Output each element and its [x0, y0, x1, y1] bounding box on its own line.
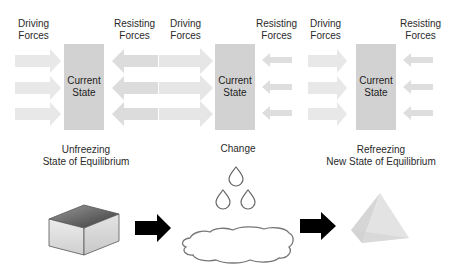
panel3-driving-arrows — [308, 49, 347, 126]
force-arrows-layer — [0, 0, 459, 274]
right-arrow-icon — [135, 214, 171, 242]
driving-arrow-icon — [159, 48, 213, 74]
driving-arrow-icon — [159, 101, 213, 127]
driving-arrow-icon — [15, 102, 61, 126]
driving-arrow-icon — [308, 102, 347, 126]
right-arrow-icon — [300, 212, 336, 240]
resisting-arrow-icon — [262, 53, 292, 67]
resisting-arrow-icon — [112, 76, 158, 100]
droplet-icon — [241, 190, 255, 209]
driving-forces-label: DrivingForces — [18, 18, 49, 42]
droplet-icon — [229, 167, 243, 186]
current-state-box: CurrentState — [356, 44, 396, 130]
stage-label-change: Change — [210, 143, 266, 155]
driving-arrow-icon — [159, 75, 213, 101]
resisting-arrow-icon — [262, 106, 292, 120]
current-state-box: CurrentState — [64, 44, 104, 130]
driving-forces-label: DrivingForces — [170, 18, 201, 42]
water-droplet-icons — [216, 167, 255, 209]
panel1-resisting-arrows — [112, 49, 158, 126]
resisting-arrow-icon — [403, 80, 433, 94]
driving-arrow-icon — [15, 76, 61, 100]
puddle-cloud-icon — [183, 227, 294, 263]
driving-forces-label: DrivingForces — [310, 18, 341, 42]
resisting-arrow-icon — [112, 49, 158, 73]
panel1-driving-arrows — [15, 49, 61, 126]
panel2-driving-arrows — [159, 48, 213, 127]
droplet-icon — [216, 190, 230, 209]
panel3-resisting-arrows — [403, 53, 433, 120]
resisting-forces-label: ResistingForces — [256, 18, 297, 42]
driving-arrow-icon — [308, 76, 347, 100]
resisting-arrow-icon — [112, 102, 158, 126]
current-state-box: CurrentState — [215, 44, 255, 130]
resisting-forces-label: ResistingForces — [114, 18, 155, 42]
cube-icon — [49, 205, 119, 255]
stage-label-unfreezing: UnfreezingState of Equilibrium — [34, 144, 138, 168]
pyramid-icon — [351, 193, 409, 243]
stage-label-refreezing: RefreezingNew State of Equilibrium — [318, 144, 444, 168]
resisting-arrow-icon — [403, 106, 433, 120]
driving-arrow-icon — [308, 49, 347, 73]
resisting-arrow-icon — [403, 53, 433, 67]
resisting-arrow-icon — [262, 80, 292, 94]
resisting-forces-label: ResistingForces — [400, 18, 441, 42]
panel2-resisting-arrows — [262, 53, 292, 120]
driving-arrow-icon — [15, 49, 61, 73]
